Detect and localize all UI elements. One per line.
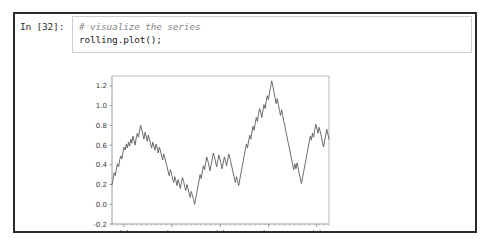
y-tick-label: -0.2 bbox=[93, 221, 107, 229]
y-tick-label: 0.6 bbox=[96, 142, 108, 150]
x-tick-label: Jan bbox=[262, 229, 274, 231]
notebook-cell: In [32]: # visualize the series rolling.… bbox=[13, 12, 477, 233]
cell-input-row: In [32]: # visualize the series rolling.… bbox=[15, 14, 475, 55]
y-tick-label: 0.4 bbox=[96, 161, 108, 169]
cell-output-figure: 1.21.00.80.60.40.20.0-0.2 JulJan2014JulJ… bbox=[15, 55, 475, 231]
series-line-rolling bbox=[112, 81, 329, 204]
code-line-statement: rolling.plot(); bbox=[79, 34, 162, 46]
y-tick-label: 1.0 bbox=[96, 102, 107, 110]
y-tick-label: 0.8 bbox=[96, 122, 107, 130]
y-axis-ticks: 1.21.00.80.60.40.20.0-0.2 bbox=[93, 82, 112, 228]
code-line-comment: # visualize the series bbox=[79, 21, 200, 33]
x-tick-label: Jul bbox=[119, 229, 129, 231]
y-tick-label: 0.2 bbox=[96, 181, 107, 189]
plot-axes-frame bbox=[112, 76, 329, 224]
x-tick-label: Jan bbox=[166, 229, 178, 231]
execution-count-prompt: In [32]: bbox=[20, 21, 76, 33]
x-tick-label: Jul bbox=[311, 229, 321, 231]
x-axis-ticks: JulJan2014JulJan2015Jul bbox=[112, 224, 329, 231]
y-tick-label: 0.0 bbox=[96, 201, 107, 209]
screenshot-root: In [32]: # visualize the series rolling.… bbox=[0, 0, 502, 246]
x-tick-label: Jul bbox=[215, 229, 225, 231]
y-tick-label: 1.2 bbox=[96, 82, 107, 90]
matplotlib-figure: 1.21.00.80.60.40.20.0-0.2 JulJan2014JulJ… bbox=[15, 55, 475, 231]
code-input-area[interactable]: # visualize the series rolling.plot(); bbox=[72, 16, 472, 53]
